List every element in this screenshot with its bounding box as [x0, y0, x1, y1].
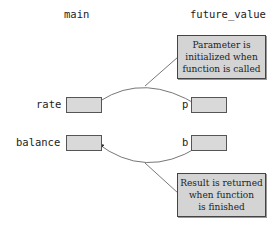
p-box — [191, 97, 227, 113]
callout-line: Result is returned — [178, 177, 265, 189]
rate-label: rate — [36, 98, 61, 110]
callout-line: Parameter is — [178, 39, 265, 51]
callout-line: function is called — [178, 63, 265, 75]
parameter-leader-line — [145, 57, 178, 86]
result-callout: Result is returned when function is fini… — [177, 173, 266, 217]
future-value-header: future_value — [190, 8, 266, 20]
parameter-callout: Parameter is initialized when function i… — [177, 35, 266, 79]
balance-label: balance — [16, 136, 60, 148]
p-label: p — [182, 98, 188, 110]
callout-line: initialized when — [178, 51, 265, 63]
balance-box — [66, 135, 102, 151]
callout-line: when function — [178, 189, 265, 201]
callout-line: is finished — [178, 201, 265, 213]
result-leader-line — [145, 163, 178, 193]
b-box — [191, 135, 227, 151]
b-label: b — [182, 136, 188, 148]
main-header: main — [64, 8, 89, 20]
rate-box — [66, 97, 102, 113]
